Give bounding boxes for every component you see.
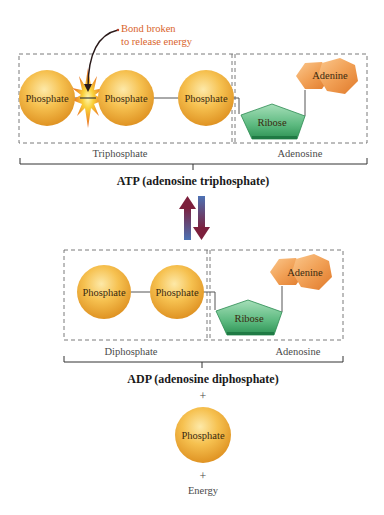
adenosine-label: Adenosine bbox=[276, 346, 321, 357]
phosphate-group: Phosphate bbox=[98, 70, 154, 126]
diphosphate-label: Diphosphate bbox=[104, 346, 157, 357]
annotation-line-2: to release energy bbox=[121, 36, 193, 47]
adp-bracket bbox=[64, 356, 343, 368]
adenine: Adenine bbox=[296, 58, 358, 94]
atp-molecule: Phosphate Phosphate Phosphate Ribose Ade… bbox=[19, 23, 367, 188]
atp-bracket bbox=[20, 158, 367, 170]
phosphate-label: Phosphate bbox=[25, 93, 69, 104]
bond-line bbox=[203, 292, 215, 310]
ribose: Ribose bbox=[241, 104, 305, 139]
phosphate-group: Phosphate bbox=[178, 70, 234, 126]
reversible-arrows-icon bbox=[179, 196, 210, 240]
adenine: Adenine bbox=[270, 254, 332, 290]
ribose-label: Ribose bbox=[257, 117, 287, 128]
plus-sign: + bbox=[200, 389, 207, 403]
adenine-label: Adenine bbox=[287, 267, 323, 278]
adenosine-label: Adenosine bbox=[278, 148, 323, 159]
adenine-label: Adenine bbox=[312, 70, 348, 81]
bond-line bbox=[233, 98, 239, 114]
phosphate-group: Phosphate bbox=[19, 70, 75, 126]
phosphate-label: Phosphate bbox=[181, 430, 225, 441]
phosphate-label: Phosphate bbox=[82, 287, 126, 298]
ribose-label: Ribose bbox=[234, 313, 264, 324]
adp-title: ADP (adenosine diphosphate) bbox=[127, 372, 278, 386]
phosphate-label: Phosphate bbox=[155, 287, 199, 298]
atp-title: ATP (adenosine triphosphate) bbox=[117, 174, 269, 188]
phosphate-group: Phosphate bbox=[150, 265, 204, 319]
triphosphate-label: Triphosphate bbox=[92, 148, 147, 159]
phosphate-group: Phosphate bbox=[77, 265, 131, 319]
plus-sign: + bbox=[200, 469, 207, 483]
products: + Phosphate + Energy bbox=[175, 389, 231, 496]
annotation-line-1: Bond broken bbox=[121, 23, 176, 34]
phosphate-label: Phosphate bbox=[184, 93, 228, 104]
energy-label: Energy bbox=[188, 485, 219, 496]
ribose: Ribose bbox=[216, 300, 282, 335]
atp-adp-cycle-diagram: Phosphate Phosphate Phosphate Ribose Ade… bbox=[0, 0, 384, 515]
adp-molecule: Phosphate Phosphate Ribose Adenine Dipho… bbox=[64, 250, 343, 386]
phosphate-label: Phosphate bbox=[104, 93, 148, 104]
